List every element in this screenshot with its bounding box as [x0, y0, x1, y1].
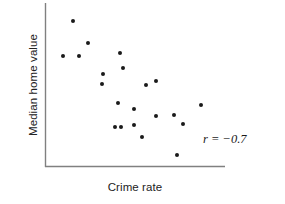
x-axis-label: Crime rate	[45, 181, 225, 193]
data-point	[113, 125, 117, 129]
scatter-plot-figure: Median home value Crime rate r = −0.7	[0, 0, 285, 204]
data-point	[199, 103, 203, 107]
data-point	[154, 114, 158, 118]
data-point	[119, 125, 123, 129]
data-point	[172, 113, 176, 117]
data-point	[181, 122, 185, 126]
data-point	[118, 51, 122, 55]
data-point	[132, 107, 136, 111]
data-point	[121, 66, 125, 70]
data-point	[71, 19, 75, 23]
data-point	[116, 101, 120, 105]
data-point	[132, 123, 136, 127]
y-axis-label: Median home value	[22, 3, 44, 167]
data-point	[140, 135, 144, 139]
correlation-annotation: r = −0.7	[203, 132, 247, 147]
data-point	[86, 41, 90, 45]
data-point	[77, 54, 81, 58]
scatter-data-area	[45, 3, 225, 167]
data-point	[154, 79, 158, 83]
data-point	[61, 54, 65, 58]
data-point	[144, 83, 148, 87]
data-point	[100, 82, 104, 86]
data-point	[101, 72, 105, 76]
data-point	[175, 153, 179, 157]
